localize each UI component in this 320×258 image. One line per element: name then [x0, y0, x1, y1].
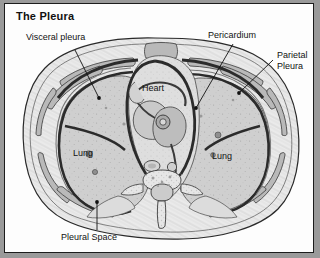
leader-dot-visceral-pleura — [97, 96, 101, 100]
label-lung-right: Lung — [212, 151, 232, 162]
paraspinal-muscles — [87, 196, 237, 218]
ribs — [36, 43, 287, 218]
label-pericardium: Pericardium — [208, 30, 256, 41]
heart-chambers — [129, 82, 186, 178]
lung-left — [58, 76, 152, 212]
vertebra — [121, 170, 203, 228]
label-parietal-pleura-line2: Pleura — [277, 61, 303, 72]
leader-dot-parietal-pleura — [237, 91, 241, 95]
label-heart: Heart — [142, 83, 164, 94]
leader-lines — [75, 44, 273, 230]
esophagus-aorta — [144, 161, 177, 172]
label-visceral-pleura: Visceral pleura — [26, 32, 85, 43]
pericardium — [127, 61, 195, 182]
leader-visceral-pleura — [75, 50, 99, 98]
leader-parietal-pleura — [239, 60, 273, 93]
leader-dot-pericardium — [194, 106, 198, 110]
mediastinum — [129, 56, 200, 200]
label-parietal-pleura-line1: Parietal — [277, 50, 308, 61]
leader-dot-pleural-space — [95, 200, 99, 204]
body-wall — [23, 38, 299, 239]
label-pleural-space: Pleural Space — [61, 232, 117, 243]
figure-root: The Pleura — [0, 0, 320, 258]
label-lung-left: Lung — [73, 148, 93, 159]
lung-right — [175, 78, 270, 211]
figure-plate: The Pleura — [4, 3, 314, 253]
leader-pericardium — [196, 44, 233, 108]
